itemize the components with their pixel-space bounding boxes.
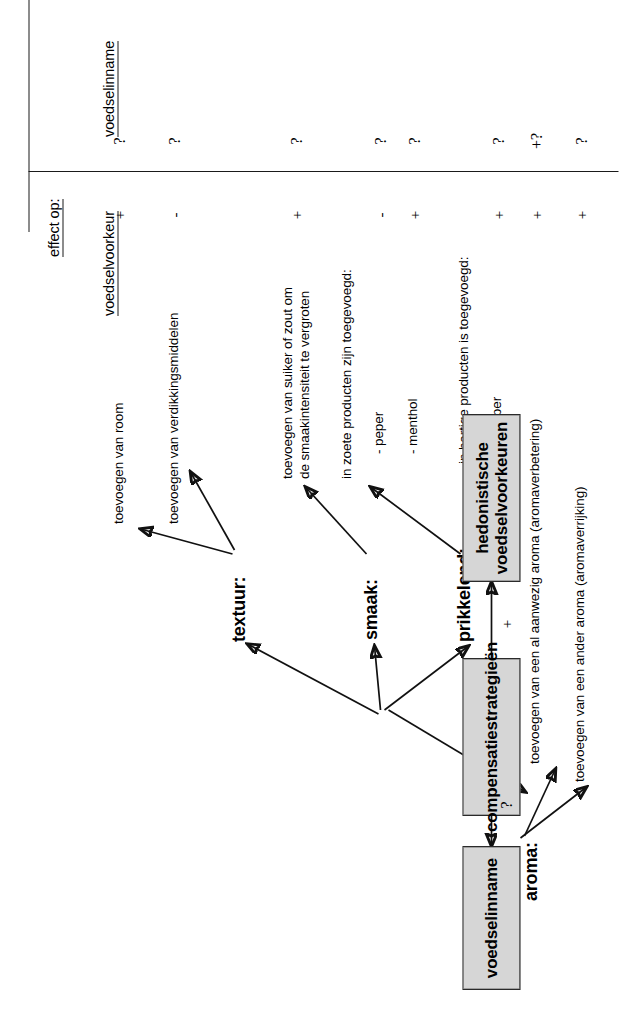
column-header-voedselinname: voedselinname [100, 41, 118, 137]
category-aroma: aroma: [520, 842, 541, 901]
effect-voorkeur-verdikking: - [166, 204, 183, 226]
category-smaak: smaak: [360, 579, 381, 640]
effect-voorkeur-menthol: + [406, 204, 423, 226]
edge-smaak-leaf [305, 487, 366, 554]
strategy-suiker-zout: toevoegen van suiker of zout om de smaak… [279, 287, 313, 479]
strategy-suiker-zout-line1: toevoegen van suiker of zout om [279, 287, 296, 479]
diagram-canvas: effect op: voedselvoorkeur voedselinname… [0, 0, 625, 1032]
edge-textuur-leaves [140, 472, 234, 554]
sub-item-peper-zoet: - peper [370, 412, 387, 454]
effect-voorkeur-aromaverbetering: + [528, 204, 545, 226]
link-label-comp-to-hedonistisch: + [498, 612, 515, 636]
effect-voorkeur-peper-hartig: + [490, 204, 507, 226]
effect-voorkeur-peper-zoet: - [372, 204, 389, 226]
node-voedselinname[interactable]: voedselinname [462, 846, 520, 990]
strategy-verdikkingsmiddelen: toevoegen van verdikkingsmiddelen [165, 313, 182, 524]
node-voedselinname-label: voedselinname [481, 858, 500, 978]
strategy-room: toevoegen van room [110, 403, 127, 524]
effect-inname-suiker-zout: ? [287, 130, 305, 152]
effect-inname-aromaverrijking: ? [572, 130, 590, 152]
node-hedonistische-label-line2: voedselvoorkeuren [491, 422, 510, 575]
effect-inname-peper-hartig: ? [489, 130, 507, 152]
link-label-comp-to-inname: ? [497, 793, 515, 817]
sub-item-menthol: - menthol [404, 399, 421, 454]
effect-inname-verdikking: ? [165, 130, 183, 152]
effect-voorkeur-room: + [111, 204, 128, 226]
strategy-aromaverbetering: toevoegen van een al aanwezig aroma (aro… [526, 419, 543, 764]
effect-voorkeur-aromaverrijking: + [573, 204, 590, 226]
column-header-voedselvoorkeur: voedselvoorkeur [100, 211, 118, 316]
column-divider [28, 171, 618, 172]
header-rule [28, 0, 29, 232]
effect-inname-peper-zoet: ? [371, 130, 389, 152]
effect-inname-aromaverbetering: +? [527, 127, 545, 155]
node-hedonistische-voedselvoorkeuren[interactable]: hedonistische voedselvoorkeuren [462, 414, 520, 582]
node-hedonistische-label-line1: hedonistische [472, 442, 491, 554]
category-textuur: textuur: [228, 577, 249, 642]
effect-inname-room: ? [110, 130, 128, 152]
strategy-suiker-zout-line2: de smaakintensiteit te vergroten [296, 287, 313, 479]
effect-voorkeur-suiker-zout: + [288, 204, 305, 226]
strategy-aromaverrijking: toevoegen van een ander aroma (aromaverr… [571, 487, 588, 782]
axis-header-effect-op: effect op: [45, 199, 63, 257]
strategy-zoete-producten: in zoete producten zijn toegevoegd: [338, 269, 355, 479]
effect-inname-menthol: ? [405, 130, 423, 152]
